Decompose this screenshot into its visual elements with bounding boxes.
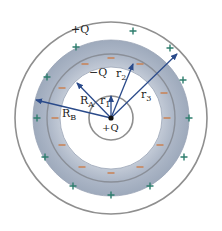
center-point-charge: [108, 115, 113, 120]
label-center-charge: +Q: [102, 122, 119, 133]
label-outer-charge: +Q: [71, 23, 89, 36]
label-inner-shell-charge: −Q: [89, 66, 107, 79]
plus-sign: [181, 154, 188, 161]
label-r3: r3: [141, 88, 151, 103]
concentric-shell-diagram: +Q −Q +Q r1 r2 r3 RA RB: [0, 0, 222, 231]
plus-sign: [167, 45, 174, 52]
plus-sign: [130, 28, 137, 35]
label-RA: RA: [80, 94, 94, 109]
